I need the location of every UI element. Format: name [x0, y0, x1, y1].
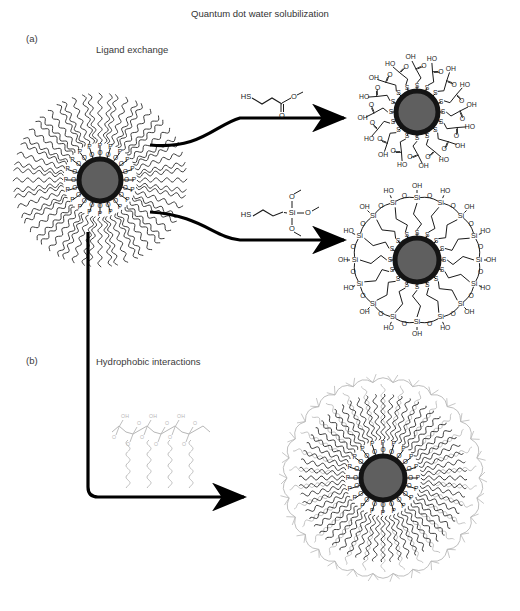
- svg-text:O: O: [354, 482, 359, 489]
- svg-text:OH: OH: [455, 142, 465, 149]
- svg-text:Si: Si: [471, 279, 478, 288]
- svg-text:OH: OH: [149, 413, 157, 419]
- svg-text:OH: OH: [357, 114, 367, 121]
- svg-text:O: O: [407, 482, 412, 489]
- svg-text:OH: OH: [378, 151, 388, 158]
- svg-text:P: P: [416, 474, 421, 481]
- svg-text:P: P: [132, 176, 137, 183]
- svg-text:S: S: [440, 245, 445, 252]
- svg-text:O: O: [289, 224, 295, 233]
- svg-text:O: O: [154, 441, 158, 447]
- svg-text:P: P: [87, 143, 92, 150]
- svg-text:P: P: [360, 502, 365, 509]
- svg-text:P: P: [401, 445, 406, 452]
- svg-text:S: S: [391, 98, 396, 105]
- svg-text:OH: OH: [177, 413, 185, 419]
- svg-text:O: O: [427, 192, 432, 199]
- figure-quantum-dot-solubilization: Quantum dot water solubilization (a) Lig…: [0, 0, 520, 611]
- svg-text:OH: OH: [412, 182, 422, 189]
- svg-text:O: O: [425, 153, 430, 160]
- svg-text:O: O: [182, 441, 186, 447]
- svg-text:S: S: [442, 256, 447, 263]
- svg-text:OH: OH: [486, 256, 496, 263]
- svg-text:P: P: [348, 463, 353, 470]
- svg-text:Si: Si: [370, 299, 377, 308]
- svg-text:OH: OH: [405, 53, 415, 60]
- svg-text:P: P: [370, 507, 375, 514]
- svg-text:O: O: [451, 81, 456, 88]
- svg-text:O: O: [353, 474, 358, 481]
- svg-text:S: S: [441, 108, 446, 115]
- svg-text:O: O: [408, 474, 413, 481]
- svg-text:P: P: [401, 502, 406, 509]
- svg-text:OH: OH: [360, 308, 370, 315]
- svg-text:O: O: [89, 151, 94, 158]
- svg-text:O: O: [106, 151, 111, 158]
- svg-text:O: O: [427, 320, 432, 327]
- svg-text:O: O: [72, 184, 77, 191]
- svg-text:Si: Si: [438, 198, 445, 207]
- figure-canvas: OPOPOPOPOPOPOPOPOPOPOPOPOPOPOPOPOPOPOPOP…: [0, 0, 520, 611]
- svg-text:O: O: [403, 458, 408, 465]
- svg-text:HS: HS: [241, 92, 251, 101]
- source-quantum-dot: OPOPOPOPOPOPOPOPOPOPOPOPOPOPOPOPOPOPOPOP: [13, 93, 187, 267]
- svg-text:O: O: [407, 465, 412, 472]
- svg-text:O: O: [140, 434, 144, 440]
- svg-text:O: O: [378, 202, 383, 209]
- svg-text:P: P: [118, 203, 123, 210]
- svg-text:O: O: [71, 176, 76, 183]
- svg-text:O: O: [291, 92, 297, 101]
- svg-text:O: O: [450, 202, 455, 209]
- svg-text:O: O: [478, 268, 483, 275]
- svg-text:O: O: [112, 434, 116, 440]
- svg-text:HO: HO: [397, 161, 407, 168]
- svg-text:P: P: [348, 485, 353, 492]
- svg-text:P: P: [125, 196, 130, 203]
- svg-text:P: P: [70, 196, 75, 203]
- svg-text:OH: OH: [412, 330, 422, 337]
- svg-text:O: O: [402, 192, 407, 199]
- svg-text:O: O: [403, 63, 408, 70]
- svg-text:OH: OH: [121, 413, 129, 419]
- svg-text:Si: Si: [414, 193, 421, 202]
- svg-text:S: S: [388, 256, 393, 263]
- svg-text:OH: OH: [446, 65, 456, 72]
- svg-text:O: O: [478, 243, 483, 250]
- svg-text:O: O: [421, 62, 426, 69]
- svg-text:O: O: [360, 292, 365, 299]
- svg-text:HO: HO: [440, 324, 450, 331]
- svg-text:P: P: [346, 474, 351, 481]
- svg-text:Si: Si: [357, 231, 364, 240]
- svg-text:HO: HO: [364, 135, 374, 142]
- svg-text:P: P: [370, 440, 375, 447]
- svg-text:O: O: [305, 208, 311, 217]
- svg-text:O: O: [380, 446, 385, 453]
- svg-text:Si: Si: [438, 312, 445, 321]
- svg-text:P: P: [130, 165, 135, 172]
- svg-text:O: O: [375, 84, 380, 91]
- svg-text:O: O: [123, 184, 128, 191]
- svg-text:P: P: [108, 208, 113, 215]
- svg-text:O: O: [389, 448, 394, 455]
- svg-text:P: P: [98, 210, 103, 217]
- svg-text:O: O: [193, 420, 197, 426]
- svg-text:P: P: [118, 148, 123, 155]
- svg-text:HO: HO: [427, 55, 437, 62]
- svg-text:HO: HO: [384, 187, 394, 194]
- svg-text:P: P: [125, 156, 130, 163]
- svg-text:O: O: [468, 220, 473, 227]
- svg-text:O: O: [454, 132, 459, 139]
- svg-text:O: O: [82, 154, 87, 161]
- svg-text:HO: HO: [385, 60, 395, 67]
- svg-text:O: O: [397, 452, 402, 459]
- svg-text:P: P: [381, 509, 386, 516]
- svg-text:P: P: [352, 453, 357, 460]
- svg-text:O: O: [364, 452, 369, 459]
- svg-text:P: P: [414, 485, 419, 492]
- svg-text:S: S: [390, 245, 395, 252]
- svg-text:O: O: [137, 420, 141, 426]
- svg-text:OH: OH: [418, 162, 428, 169]
- carboxyl-capped-quantum-dot: SOOHSOHOSOOHSOHOSOOHSOHOSOOHSOHOSOOHSOHO…: [357, 53, 476, 169]
- svg-text:O: O: [468, 292, 473, 299]
- svg-text:O: O: [165, 420, 169, 426]
